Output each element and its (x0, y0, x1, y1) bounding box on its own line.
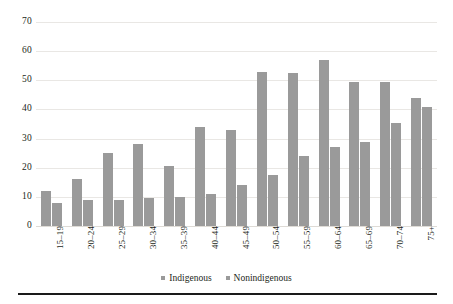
y-tick-label: 30 (6, 134, 32, 144)
x-tick-label: 65–69 (364, 226, 374, 270)
y-tick-label: 50 (6, 75, 32, 85)
bar (288, 73, 298, 226)
bar (83, 200, 93, 226)
y-tick-label: 10 (6, 192, 32, 202)
legend-item: Nonindigenous (226, 273, 292, 283)
bar (237, 185, 247, 226)
bar (268, 175, 278, 226)
y-axis: 010203040506070 (0, 22, 32, 226)
x-tick-label: 40–44 (210, 226, 220, 270)
x-tick-label: 30–34 (148, 226, 158, 270)
y-tick-label: 60 (6, 46, 32, 56)
bar (41, 191, 51, 226)
legend-label: Nonindigenous (234, 273, 292, 283)
x-tick-label: 25–29 (117, 226, 127, 270)
bar (319, 60, 329, 226)
bars-layer (36, 22, 437, 226)
legend-item: Indigenous (161, 273, 211, 283)
y-tick-label: 0 (6, 221, 32, 231)
bar (411, 98, 421, 226)
bar (195, 127, 205, 226)
bar (72, 179, 82, 226)
bar (380, 82, 390, 226)
x-tick-label: 50–54 (271, 226, 281, 270)
bar (257, 72, 267, 226)
bar (226, 130, 236, 226)
bar (103, 153, 113, 226)
bar (114, 200, 124, 226)
bar (391, 123, 401, 226)
bar (133, 144, 143, 226)
bar (349, 82, 359, 226)
x-tick-label: 20–24 (86, 226, 96, 270)
bar (360, 142, 370, 227)
y-tick-label: 70 (6, 17, 32, 27)
square-marker-icon (226, 276, 230, 280)
x-tick-label: 15–19 (55, 226, 65, 270)
legend-label: Indigenous (169, 273, 211, 283)
bar (422, 107, 432, 226)
bar (175, 197, 185, 226)
gridline (36, 226, 437, 227)
x-tick-label: 75+ (426, 226, 436, 270)
x-tick-label: 70–74 (395, 226, 405, 270)
bar (52, 203, 62, 226)
square-marker-icon (161, 276, 165, 280)
bar (164, 166, 174, 226)
bar (330, 147, 340, 226)
y-tick-label: 40 (6, 104, 32, 114)
x-tick-label: 45–49 (241, 226, 251, 270)
chart-legend: IndigenousNonindigenous (0, 273, 453, 283)
x-axis: 15–1920–2425–2930–3435–3940–4445–4950–54… (36, 228, 437, 272)
x-tick-label: 60–64 (333, 226, 343, 270)
grouped-bar-chart: 010203040506070 15–1920–2425–2930–3435–3… (0, 0, 453, 304)
bar (299, 156, 309, 226)
bar (206, 194, 216, 226)
bar (144, 198, 154, 226)
y-tick-label: 20 (6, 163, 32, 173)
footer-rule (18, 293, 437, 295)
x-tick-label: 35–39 (179, 226, 189, 270)
x-tick-label: 55–59 (302, 226, 312, 270)
